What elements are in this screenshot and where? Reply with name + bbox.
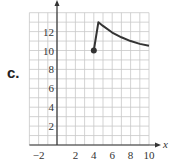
y-tick-label: 8: [49, 63, 55, 75]
x-axis-arrow-icon: [155, 143, 161, 148]
x-tick-label: 10: [144, 149, 156, 161]
x-tick-label: 4: [91, 149, 97, 161]
y-tick-label: 10: [43, 45, 55, 57]
closed-dot-icon: [91, 48, 97, 54]
x-tick-label: 2: [73, 149, 79, 161]
x-tick-label: −2: [33, 149, 45, 161]
y-tick-label: 4: [49, 101, 55, 113]
y-axis-arrow-icon: [55, 0, 60, 6]
graph: x−224681024681012: [0, 0, 184, 165]
y-tick-label: 6: [49, 82, 55, 94]
x-axis-label: x: [162, 138, 168, 150]
y-tick-label: 2: [49, 120, 55, 132]
y-tick-label: 12: [43, 26, 54, 38]
x-tick-label: 6: [109, 149, 115, 161]
x-tick-label: 8: [128, 149, 134, 161]
